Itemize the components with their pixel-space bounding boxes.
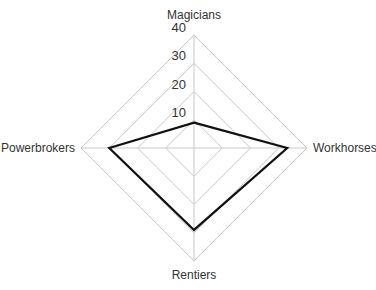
tick-label: 20 xyxy=(172,77,186,92)
tick-label: 30 xyxy=(172,48,186,63)
tick-label: 40 xyxy=(172,20,186,35)
radar-chart: 10203040 MagiciansWorkhorsesRentiersPowe… xyxy=(0,0,376,290)
radar-series xyxy=(109,123,287,230)
series-polygon xyxy=(109,123,287,230)
axis-label-workhorses: Workhorses xyxy=(313,141,376,155)
radar-chart-svg: 10203040 MagiciansWorkhorsesRentiersPowe… xyxy=(0,0,376,290)
radar-tick-labels: 10203040 xyxy=(172,20,186,120)
axis-label-magicians: Magicians xyxy=(167,8,221,22)
axis-label-powerbrokers: Powerbrokers xyxy=(1,141,75,155)
radar-axis-labels: MagiciansWorkhorsesRentiersPowerbrokers xyxy=(1,8,376,282)
axis-label-rentiers: Rentiers xyxy=(172,268,217,282)
radar-spokes xyxy=(81,35,307,261)
tick-label: 10 xyxy=(172,105,186,120)
